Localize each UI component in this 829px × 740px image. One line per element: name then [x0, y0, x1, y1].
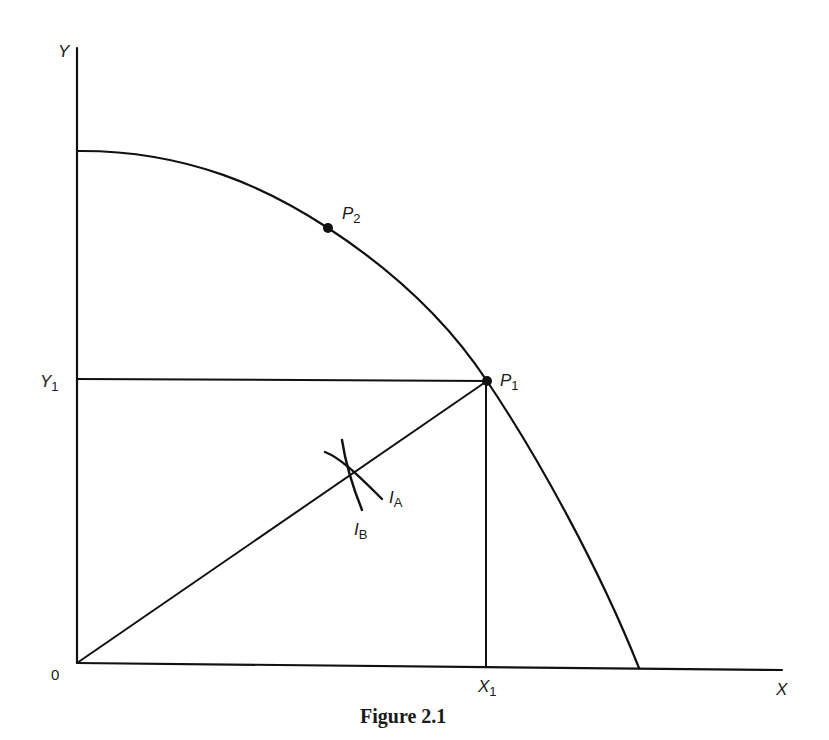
x-axis-label: X: [775, 680, 788, 699]
x1-label: X1: [477, 677, 497, 699]
y-axis-label: Y: [58, 42, 71, 61]
ib-label: IB: [354, 520, 367, 542]
figure-caption: Figure 2.1: [360, 705, 446, 728]
y1-label: Y1: [40, 372, 59, 394]
point-p1: [482, 376, 492, 386]
point-p2: [323, 223, 333, 233]
origin-label: 0: [51, 666, 59, 683]
origin-ray: [77, 381, 487, 663]
production-possibility-curve: [77, 151, 639, 668]
y1-guide-line: [77, 379, 487, 381]
ia-label: IA: [389, 488, 403, 510]
p2-label: P2: [342, 204, 361, 226]
x-axis: [77, 663, 782, 670]
p1-label: P1: [500, 371, 519, 393]
production-possibility-diagram: Y X 0 Y1 X1 P2 P1 IA IB Figure 2.1: [0, 0, 829, 740]
